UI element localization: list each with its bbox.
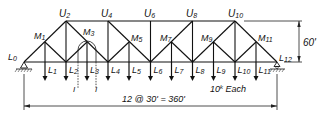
- node-label-U10: U10: [228, 8, 243, 19]
- top-node-labels: U2 U4 U6 U8 U10: [59, 8, 243, 19]
- load-suffix: Each: [223, 84, 246, 94]
- svg-text:10k Each: 10k Each: [210, 84, 246, 94]
- pin-support-icon: [15, 62, 32, 72]
- load-arrow-icon: [148, 62, 153, 81]
- height-dimension-label: 60': [303, 37, 317, 48]
- node-label-M5: M5: [131, 33, 143, 43]
- node-label-M3: M3: [83, 27, 95, 37]
- node-label-L6: L6: [154, 65, 163, 75]
- node-label-U8: U8: [186, 8, 197, 19]
- node-label-M1: M1: [34, 31, 46, 41]
- node-label-L9: L9: [217, 65, 226, 75]
- load-arrow-icon: [169, 62, 174, 81]
- load-arrow-icon: [64, 62, 69, 81]
- roller-support-icon: [270, 62, 285, 72]
- node-label-L5: L5: [132, 65, 141, 75]
- node-label-U2: U2: [59, 8, 70, 19]
- load-arrow-icon: [211, 62, 216, 81]
- node-label-L11: L11: [259, 65, 271, 75]
- node-label-L8: L8: [196, 65, 205, 75]
- load-value: 10: [210, 84, 220, 94]
- node-label-U6: U6: [144, 8, 155, 19]
- section-mark-right: I: [95, 85, 98, 94]
- node-label-M7: M7: [160, 33, 173, 43]
- node-label-L3: L3: [90, 65, 99, 75]
- node-label-M11: M11: [258, 33, 273, 43]
- node-label-L1: L1: [48, 65, 57, 75]
- section-mark-left: I: [73, 85, 76, 94]
- load-label: 10k Each: [210, 84, 246, 94]
- mid-node-labels: M1 M3 M5 M7 M9 M11: [34, 27, 273, 43]
- node-label-L4: L4: [111, 65, 120, 75]
- node-label-L12: L12: [279, 53, 292, 63]
- node-label-U4: U4: [101, 8, 112, 19]
- load-arrow-icon: [190, 62, 195, 81]
- load-arrow-icon: [43, 62, 48, 81]
- node-label-L7: L7: [175, 65, 185, 75]
- node-label-L2: L2: [69, 65, 78, 75]
- truss-diagram: I I: [0, 0, 327, 120]
- load-arrow-icon: [127, 62, 132, 81]
- node-label-L10: L10: [238, 65, 251, 75]
- load-arrow-icon: [106, 62, 111, 81]
- span-dimension-label: 12 @ 30' = 360': [122, 94, 185, 104]
- node-label-M9: M9: [201, 33, 213, 43]
- node-label-L0: L0: [8, 52, 17, 62]
- load-arrow-icon: [85, 62, 90, 81]
